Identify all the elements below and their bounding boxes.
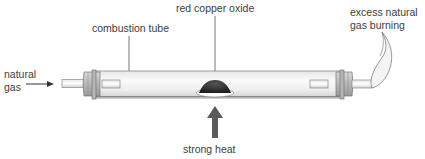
flame-icon — [371, 32, 392, 88]
inner-pipe-left — [102, 80, 120, 88]
stopper-left — [83, 70, 100, 99]
inlet-arrow-icon — [26, 81, 54, 87]
inner-pipe-right — [310, 80, 328, 88]
stopper-right — [336, 70, 353, 99]
heat-arrow-icon — [207, 106, 223, 138]
outlet-pipe — [352, 80, 372, 88]
apparatus-diagram — [0, 0, 425, 159]
inlet-pipe — [62, 80, 84, 88]
